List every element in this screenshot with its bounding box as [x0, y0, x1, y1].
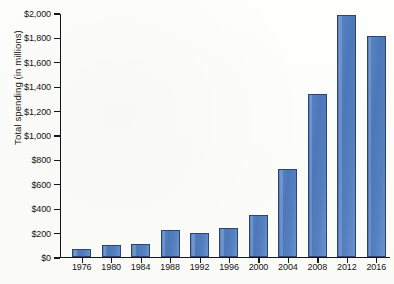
- y-tick-mark: [54, 233, 60, 234]
- y-tick-label: $400: [31, 204, 51, 214]
- y-tick-label: $2,000: [24, 9, 51, 19]
- y-tick-mark: [54, 135, 60, 136]
- bar: [308, 94, 327, 256]
- plot-area: $0$200$400$600$800$1,000$1,200$1,400$1,6…: [60, 14, 390, 258]
- y-tick-label: $0: [41, 253, 51, 263]
- bar-slot: [67, 14, 96, 257]
- y-tick-mark: [54, 87, 60, 88]
- bar-chart: Total spending (in millions) $0$200$400$…: [0, 0, 394, 284]
- bar-slot: [332, 14, 361, 257]
- bar: [161, 230, 180, 256]
- bar: [219, 228, 238, 256]
- bar: [190, 233, 209, 256]
- y-tick-mark: [54, 38, 60, 39]
- bar: [131, 244, 150, 257]
- x-tick-label: 1976: [72, 262, 92, 272]
- bar-slot: [185, 14, 214, 257]
- y-tick-label: $200: [31, 229, 51, 239]
- bar-slot: [126, 14, 155, 257]
- y-tick-mark: [54, 257, 60, 258]
- y-tick-label: $1,600: [24, 58, 51, 68]
- x-tick-label: 1984: [131, 262, 151, 272]
- y-tick-label: $1,400: [24, 82, 51, 92]
- y-tick-label: $1,000: [24, 131, 51, 141]
- y-tick-mark: [54, 160, 60, 161]
- x-tick-label: 2016: [366, 262, 386, 272]
- y-tick-label: $800: [31, 155, 51, 165]
- y-tick-label: $600: [31, 180, 51, 190]
- y-tick-mark: [54, 184, 60, 185]
- y-tick-mark: [54, 209, 60, 210]
- bar-slot: [303, 14, 332, 257]
- y-tick-label: $1,200: [24, 107, 51, 117]
- x-tick-label: 1992: [190, 262, 210, 272]
- bar: [249, 215, 268, 257]
- bar-slot: [96, 14, 125, 257]
- bar-slot: [155, 14, 184, 257]
- bar: [72, 249, 91, 257]
- bar: [102, 245, 121, 256]
- y-tick-label: $1,800: [24, 33, 51, 43]
- y-tick-mark: [54, 111, 60, 112]
- bar-slot: [273, 14, 302, 257]
- bar-series: [61, 14, 390, 257]
- x-tick-label: 2004: [278, 262, 298, 272]
- y-tick-mark: [54, 13, 60, 14]
- bar-slot: [244, 14, 273, 257]
- x-tick-label: 1996: [219, 262, 239, 272]
- bar-slot: [362, 14, 391, 257]
- y-tick-mark: [54, 62, 60, 63]
- bar: [337, 15, 356, 257]
- x-axis-line: [60, 257, 390, 258]
- bar: [278, 169, 297, 256]
- x-tick-label: 2008: [308, 262, 328, 272]
- x-tick-label: 1988: [160, 262, 180, 272]
- bar-slot: [214, 14, 243, 257]
- x-tick-label: 2000: [249, 262, 269, 272]
- x-tick-label: 1980: [101, 262, 121, 272]
- bar: [367, 36, 386, 256]
- y-axis-title: Total spending (in millions): [12, 8, 23, 168]
- x-tick-label: 2012: [337, 262, 357, 272]
